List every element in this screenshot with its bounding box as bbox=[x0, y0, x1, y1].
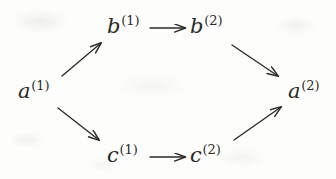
node-b2-base: b bbox=[190, 14, 204, 38]
node-c1-base: c bbox=[107, 143, 119, 167]
node-b2-superscript: (2) bbox=[204, 13, 222, 28]
arrow-b2-to-a2 bbox=[232, 45, 278, 76]
arrow-layer bbox=[0, 0, 336, 179]
commutative-diagram: a(1) b(1) b(2) c(1) c(2) a(2) bbox=[0, 0, 336, 179]
arrow-c2-to-a2 bbox=[234, 107, 281, 140]
node-b1: b(1) bbox=[107, 14, 140, 37]
node-a2-base: a bbox=[288, 79, 301, 103]
node-a1: a(1) bbox=[18, 79, 50, 102]
node-b2: b(2) bbox=[190, 14, 223, 37]
arrow-a1-to-b1 bbox=[62, 43, 101, 76]
arrow-a1-to-c1 bbox=[58, 108, 99, 140]
node-a2: a(2) bbox=[288, 79, 320, 102]
node-c2: c(2) bbox=[190, 143, 221, 166]
node-c1: c(1) bbox=[107, 143, 138, 166]
node-b1-base: b bbox=[107, 14, 121, 38]
node-c1-superscript: (1) bbox=[119, 142, 137, 157]
node-c2-superscript: (2) bbox=[202, 142, 220, 157]
node-a1-superscript: (1) bbox=[31, 78, 49, 93]
node-c2-base: c bbox=[190, 143, 202, 167]
node-b1-superscript: (1) bbox=[121, 13, 139, 28]
node-a2-superscript: (2) bbox=[301, 78, 319, 93]
node-a1-base: a bbox=[18, 79, 31, 103]
